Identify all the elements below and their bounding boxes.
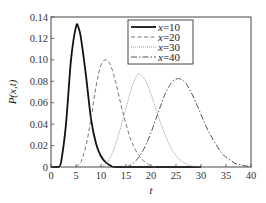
y-tick-label: 0.08 <box>30 76 48 87</box>
x-tick-label: 40 <box>246 170 257 181</box>
x-tick-label: 35 <box>221 170 232 181</box>
series-line-2 <box>76 60 156 167</box>
x-tick-label: 25 <box>171 170 182 181</box>
chart: 051015202530354000.020.040.060.080.100.1… <box>0 0 266 203</box>
y-tick-label: 0 <box>43 162 48 173</box>
x-tick-label: 15 <box>121 170 132 181</box>
x-tick-label: 10 <box>96 170 107 181</box>
x-tick-label: 20 <box>146 170 157 181</box>
x-tick-label: 30 <box>196 170 207 181</box>
x-tick-label: 0 <box>48 170 53 181</box>
legend: x=10x=20x=30x=40 <box>128 20 193 64</box>
series-line-4 <box>126 79 251 167</box>
series-line-3 <box>101 74 201 167</box>
y-tick-label: 0.14 <box>30 12 49 23</box>
x-tick-label: 5 <box>73 170 78 181</box>
y-tick-label: 0.04 <box>30 119 49 130</box>
y-tick-label: 0.06 <box>30 97 48 108</box>
y-tick-label: 0.02 <box>30 140 48 151</box>
x-axis-label: t <box>149 184 153 196</box>
y-tick-label: 0.12 <box>30 33 48 44</box>
y-tick-label: 0.10 <box>30 54 48 65</box>
y-axis-label: P(x,t) <box>6 79 19 105</box>
legend-entry: x=40 <box>157 51 181 63</box>
